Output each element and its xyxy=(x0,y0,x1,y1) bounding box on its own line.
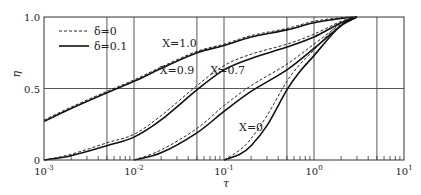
x-tick-label: 101 xyxy=(395,164,412,177)
legend-label: δ=0 xyxy=(94,25,117,38)
curve-label: X=1.0 xyxy=(162,37,197,50)
curve-x-1-0-0 xyxy=(44,17,357,120)
y-tick-label: 0.5 xyxy=(24,84,40,95)
curve-x-1-0-0-1 xyxy=(44,17,357,121)
x-tick-label: 100 xyxy=(305,164,322,177)
x-axis-label: τ xyxy=(223,177,230,190)
x-tick-label: 10-2 xyxy=(124,164,144,177)
legend: δ=0δ=0.1 xyxy=(59,25,127,53)
y-tick-label: 1.0 xyxy=(24,12,40,23)
curve-label: X=0.9 xyxy=(160,64,195,77)
x-tick-label: 10-1 xyxy=(214,164,234,177)
legend-label: δ=0.1 xyxy=(94,40,127,53)
y-axis-label: η xyxy=(10,70,23,77)
chart: 10-310-210-1100101 00.51.0 X=1.0X=0.9X=0… xyxy=(0,0,421,195)
curve-labels: X=1.0X=0.9X=0.7X=0 xyxy=(160,37,263,134)
gridlines xyxy=(44,17,404,160)
y-tick-label: 0 xyxy=(34,155,40,166)
y-axis-ticks: 00.51.0 xyxy=(24,12,40,166)
curve-label: X=0 xyxy=(239,121,263,134)
curve-label: X=0.7 xyxy=(210,64,245,77)
x-axis-ticks: 10-310-210-1100101 xyxy=(34,156,412,177)
